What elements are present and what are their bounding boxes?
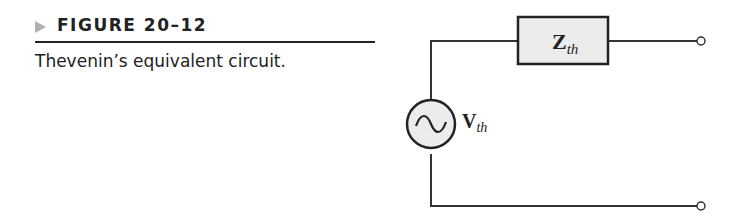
terminal-top xyxy=(697,37,705,45)
source-label: Vth xyxy=(462,110,487,135)
wire-bottom xyxy=(431,154,697,206)
terminal-bottom xyxy=(697,202,705,210)
thevenin-circuit-diagram: Zth Vth xyxy=(0,0,746,217)
